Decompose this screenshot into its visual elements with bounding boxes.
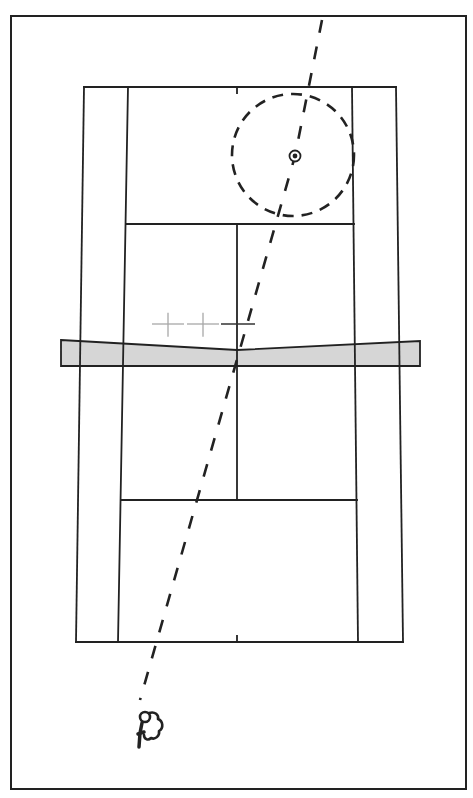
diagram-stage: Tennis shot trajectory diagram bbox=[0, 0, 473, 798]
target-point-icon bbox=[290, 151, 301, 162]
position-marker-2-crosshair-icon bbox=[187, 313, 219, 337]
player-icon bbox=[138, 712, 162, 747]
position-markers bbox=[152, 313, 255, 337]
court-diagram bbox=[0, 0, 473, 798]
position-marker-1-crosshair-icon bbox=[152, 313, 184, 337]
